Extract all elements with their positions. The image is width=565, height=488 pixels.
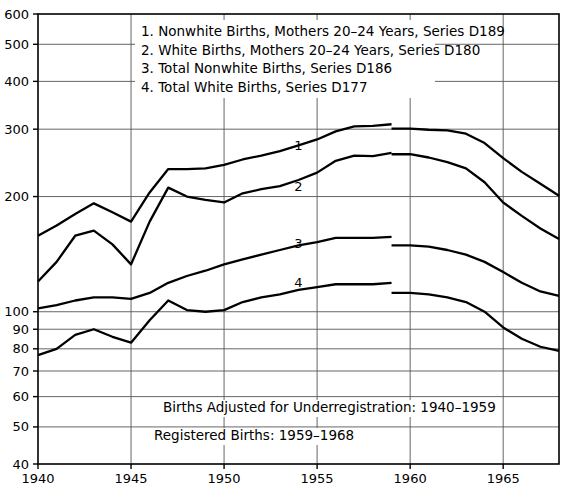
x-tick-label: 1955 (301, 471, 334, 486)
y-tick-label: 90 (12, 322, 29, 337)
y-tick-label: 70 (12, 364, 29, 379)
series-tag-D186: 3 (294, 236, 302, 251)
annotation-text: Births Adjusted for Underregistration: 1… (163, 399, 496, 415)
series-line-D189-adjusted (38, 124, 392, 235)
births-log-chart: 600500400300200100908070605040 194019451… (0, 0, 565, 488)
y-tick-label: 400 (4, 74, 29, 89)
legend-entry: 1. Nonwhite Births, Mothers 20–24 Years,… (141, 23, 505, 39)
series-tag-D177: 4 (294, 275, 302, 290)
series-number-tags: 1234 (294, 138, 302, 290)
y-axis-tick-labels: 600500400300200100908070605040 (4, 7, 29, 472)
series-line-D180-adjusted (38, 153, 392, 281)
series-line-D186-adjusted (38, 237, 392, 309)
y-tick-label: 100 (4, 304, 29, 319)
series-line-D186-registered (392, 245, 559, 295)
x-axis-tick-labels: 194019451950195519601965 (21, 471, 519, 486)
chart-canvas: 600500400300200100908070605040 194019451… (0, 0, 565, 488)
y-tick-label: 300 (4, 122, 29, 137)
annotation-text: Registered Births: 1959–1968 (154, 427, 354, 443)
legend-entry: 3. Total Nonwhite Births, Series D186 (141, 60, 392, 76)
series-line-D189-registered (392, 129, 559, 196)
legend-block: 1. Nonwhite Births, Mothers 20–24 Years,… (135, 20, 505, 98)
y-tick-label: 40 (12, 457, 29, 472)
series-tag-D180: 2 (294, 179, 302, 194)
y-tick-label: 200 (4, 189, 29, 204)
legend-entry: 4. Total White Births, Series D177 (141, 79, 368, 95)
x-tick-label: 1965 (487, 471, 520, 486)
chart-annotations: Births Adjusted for Underregistration: 1… (150, 399, 496, 445)
series-line-D177-adjusted (38, 283, 392, 355)
y-tick-label: 80 (12, 341, 29, 356)
series-line-D177-registered (392, 293, 559, 351)
series-tag-D189: 1 (294, 138, 302, 153)
x-tick-label: 1960 (394, 471, 427, 486)
x-tick-label: 1950 (208, 471, 241, 486)
legend-entry: 2. White Births, Mothers 20–24 Years, Se… (141, 42, 480, 58)
y-tick-label: 60 (12, 389, 29, 404)
y-tick-label: 50 (12, 419, 29, 434)
x-tick-label: 1940 (21, 471, 54, 486)
x-tick-label: 1945 (114, 471, 147, 486)
y-tick-label: 500 (4, 37, 29, 52)
y-tick-label: 600 (4, 7, 29, 22)
